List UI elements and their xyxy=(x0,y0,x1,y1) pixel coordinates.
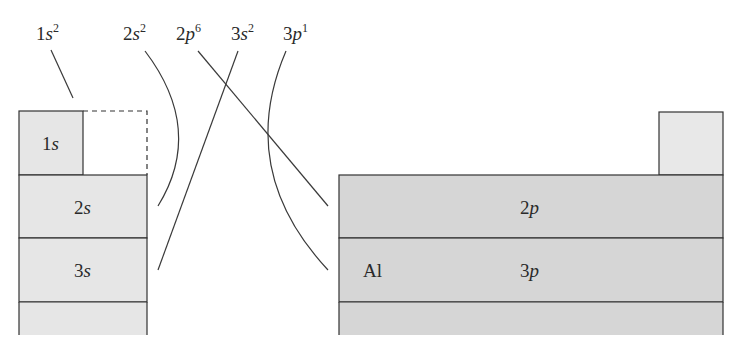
label-3s2: 3s2 xyxy=(231,21,254,44)
label-1s2: 1s2 xyxy=(36,21,59,44)
band-p-continuation xyxy=(339,302,723,335)
connector-2p xyxy=(198,51,328,206)
band-1s-label: 1s xyxy=(42,133,59,154)
connector-2s xyxy=(145,51,179,206)
element-label: Al xyxy=(363,260,382,281)
p-band-stack: 2p 3p Al xyxy=(339,112,723,335)
band-1s-empty-dashed xyxy=(83,111,147,175)
connector-3p xyxy=(268,51,328,270)
connector-1s xyxy=(51,50,73,98)
band-2p-label: 2p xyxy=(520,197,539,218)
label-2s2: 2s2 xyxy=(123,21,146,44)
label-2p6: 2p6 xyxy=(176,21,201,44)
electron-band-diagram: 1s2 2s2 2p6 3s2 3p1 1s 2s 3s 2p 3p Al xyxy=(0,0,745,352)
s-band-stack: 1s 2s 3s xyxy=(19,111,147,335)
band-3p-label: 3p xyxy=(520,260,539,281)
band-3s-label: 3s xyxy=(74,260,91,281)
band-s-continuation xyxy=(19,302,147,335)
band-small-top xyxy=(659,112,723,175)
label-3p1: 3p1 xyxy=(283,21,308,44)
configuration-labels: 1s2 2s2 2p6 3s2 3p1 xyxy=(36,21,308,44)
band-2s-label: 2s xyxy=(74,197,91,218)
